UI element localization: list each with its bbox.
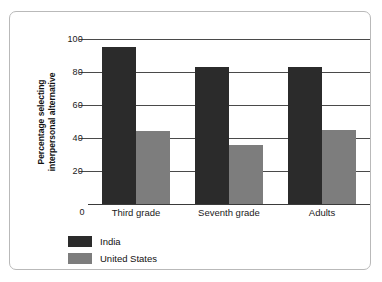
legend-swatch-united-states bbox=[68, 253, 92, 264]
legend: IndiaUnited States bbox=[68, 234, 157, 268]
y-axis-tick-label-60: 60 bbox=[73, 100, 83, 110]
bar-india-adults bbox=[288, 67, 322, 204]
figure-frame: Percentage selecting interpersonal alter… bbox=[9, 11, 371, 270]
x-axis-tick-label-third-grade: Third grade bbox=[88, 207, 184, 218]
bars-layer bbox=[88, 39, 370, 204]
x-axis-line bbox=[88, 204, 370, 205]
y-axis-title: Percentage selecting interpersonal alter… bbox=[34, 42, 60, 202]
y-axis-title-line-2: interpersonal alternative bbox=[47, 73, 57, 172]
legend-label-india: India bbox=[100, 236, 121, 247]
legend-label-united-states: United States bbox=[100, 253, 157, 264]
bar-group-third-grade bbox=[102, 39, 170, 204]
x-axis-tick-label-seventh-grade: Seventh grade bbox=[181, 207, 277, 218]
bar-united-states-third-grade bbox=[136, 131, 170, 204]
bar-group-seventh-grade bbox=[195, 39, 263, 204]
legend-swatch-india bbox=[68, 236, 92, 247]
y-axis-tick-label-40: 40 bbox=[73, 133, 83, 143]
plot-area: 20406080100 bbox=[88, 39, 370, 204]
legend-item-india: India bbox=[68, 234, 157, 249]
y-axis-tick-label-20: 20 bbox=[73, 166, 83, 176]
legend-item-united-states: United States bbox=[68, 251, 157, 266]
bar-united-states-adults bbox=[322, 130, 356, 204]
y-axis-title-line-1: Percentage selecting bbox=[36, 79, 46, 164]
y-axis-title-text: Percentage selecting interpersonal alter… bbox=[36, 73, 58, 172]
bar-group-adults bbox=[288, 39, 356, 204]
x-axis-tick-label-adults: Adults bbox=[274, 207, 370, 218]
y-axis-tick-label-80: 80 bbox=[73, 67, 83, 77]
bar-india-seventh-grade bbox=[195, 67, 229, 204]
bar-india-third-grade bbox=[102, 47, 136, 204]
bar-united-states-seventh-grade bbox=[229, 145, 263, 204]
y-axis-tick-label-100: 100 bbox=[67, 34, 83, 44]
